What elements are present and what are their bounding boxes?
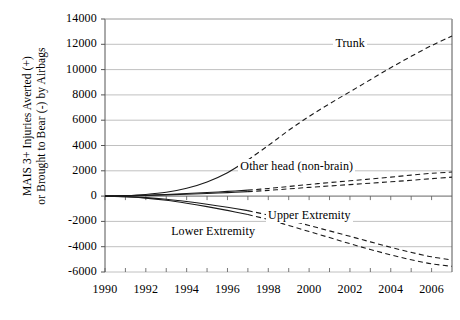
- x-axis-tick-label: 2000: [287, 282, 331, 297]
- series-label-other-head-non-brain: Other head (non-brain): [238, 159, 355, 174]
- y-axis-tick-label: 12000: [37, 36, 97, 51]
- x-axis-tick-label: 2002: [328, 282, 372, 297]
- series-label-trunk: Trunk: [333, 36, 366, 51]
- y-axis-tick-label: 8000: [37, 87, 97, 102]
- x-axis-tick-label: 2006: [410, 282, 454, 297]
- y-axis-tick-label: 14000: [37, 11, 97, 26]
- series-label-lower-extremity: Lower Extremity: [169, 224, 257, 239]
- y-axis-tick-label: -4000: [37, 239, 97, 254]
- x-axis-tick-label: 1994: [165, 282, 209, 297]
- y-axis-tick-label: 10000: [37, 62, 97, 77]
- x-axis-tick-label: 1992: [124, 282, 168, 297]
- x-axis-tick-label: 2004: [369, 282, 413, 297]
- y-axis-tick-label: 0: [37, 188, 97, 203]
- chart-figure: MAIS 3+ Injuries Averted (+) or Brought …: [0, 0, 460, 320]
- series-label-upper-extremity: Upper Extremity: [266, 208, 352, 223]
- x-axis-tick-label: 1996: [205, 282, 249, 297]
- y-axis-tick-label: -6000: [37, 264, 97, 279]
- x-axis-tick-label: 1990: [83, 282, 127, 297]
- x-axis-tick-label: 1998: [246, 282, 290, 297]
- y-axis-tick-label: -2000: [37, 213, 97, 228]
- y-axis-tick-label: 4000: [37, 138, 97, 153]
- y-axis-tick-label: 2000: [37, 163, 97, 178]
- y-axis-tick-label: 6000: [37, 112, 97, 127]
